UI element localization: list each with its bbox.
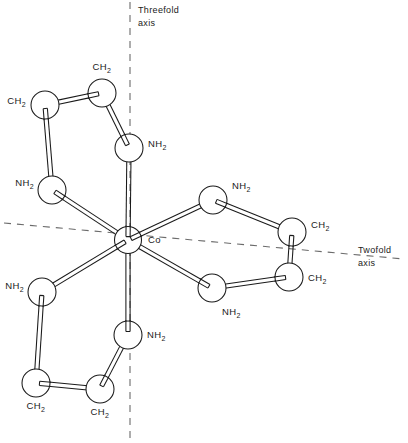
bonds-layer bbox=[35, 94, 294, 390]
label-n1: NH2 bbox=[148, 138, 167, 151]
bond-c1-c2 bbox=[57, 94, 90, 105]
atom-n1 bbox=[115, 134, 143, 162]
label-n6: NH2 bbox=[147, 329, 166, 342]
label-c4: CH2 bbox=[308, 272, 327, 285]
label-cobalt: Co bbox=[148, 234, 161, 245]
label-c6: CH2 bbox=[91, 406, 110, 419]
atom-c6 bbox=[86, 375, 114, 403]
symmetry-axes-layer bbox=[4, 2, 404, 441]
threefold-axis-label-line2: axis bbox=[138, 18, 156, 28]
bond-n5-c5 bbox=[35, 304, 44, 370]
bond-c5-c6 bbox=[48, 382, 88, 390]
label-n5: NH2 bbox=[5, 280, 24, 293]
label-c3: CH2 bbox=[311, 219, 330, 232]
twofold-axis-label: Twofoldaxis bbox=[358, 245, 391, 268]
twofold-axis-label-line1: Twofold bbox=[358, 245, 391, 255]
molecular-structure-figure: NH2CH2CH2NH2NH2CH2CH2NH2NH2CH2CH2NH2Co T… bbox=[0, 0, 408, 443]
bond-center-n5 bbox=[52, 244, 119, 287]
bond-n3-c3 bbox=[224, 203, 281, 230]
label-c5: CH2 bbox=[27, 400, 46, 413]
bond-center-n3 bbox=[138, 203, 203, 236]
atom-n4 bbox=[198, 274, 226, 302]
label-c1: CH2 bbox=[93, 61, 112, 74]
bond-n4-center bbox=[137, 244, 202, 283]
atom-n6 bbox=[114, 321, 142, 349]
bond-n1-c1 bbox=[106, 103, 126, 137]
atom-n5 bbox=[28, 278, 56, 306]
atom-c3 bbox=[278, 218, 306, 246]
label-c2: CH2 bbox=[7, 95, 26, 108]
bond-c6-n6 bbox=[104, 345, 124, 379]
atom-c5 bbox=[22, 369, 50, 397]
axis-labels-layer: ThreefoldaxisTwofoldaxis bbox=[138, 5, 391, 268]
bond-c2-n2 bbox=[44, 117, 53, 177]
twofold-axis bbox=[4, 223, 404, 259]
atom-cobalt bbox=[115, 227, 142, 254]
atom-c4 bbox=[275, 263, 303, 291]
atom-n3 bbox=[199, 186, 227, 214]
bond-center-n1 bbox=[126, 160, 131, 228]
label-n4: NH2 bbox=[222, 306, 241, 319]
bond-c3-c4 bbox=[288, 244, 294, 264]
atoms-layer bbox=[22, 79, 306, 403]
label-n3: NH2 bbox=[232, 180, 251, 193]
atom-n2 bbox=[38, 176, 66, 204]
label-n2: NH2 bbox=[15, 177, 34, 190]
twofold-axis-label-line2: axis bbox=[358, 258, 376, 268]
bond-c4-n4 bbox=[224, 277, 277, 289]
threefold-axis-label: Threefoldaxis bbox=[138, 5, 179, 28]
atom-c2 bbox=[31, 91, 59, 119]
threefold-axis-label-line1: Threefold bbox=[138, 5, 179, 15]
diagram-canvas: NH2CH2CH2NH2NH2CH2CH2NH2NH2CH2CH2NH2Co T… bbox=[0, 0, 408, 443]
